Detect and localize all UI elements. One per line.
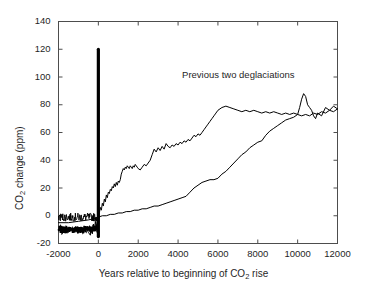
- y-tick-140: 140: [0, 15, 51, 26]
- y-tick-40: 40: [0, 154, 51, 165]
- annotation-previous-deglaciations: Previous two deglaciations: [182, 69, 294, 80]
- y-axis-title-prefix: CO: [14, 195, 25, 210]
- y-tick-80: 80: [0, 98, 51, 109]
- x-axis-title-prefix: Years relative to beginning of CO: [99, 268, 245, 279]
- y-tick-60: 60: [0, 126, 51, 137]
- y-axis-title-suffix: change (ppm): [14, 126, 25, 190]
- y-tick-100: 100: [0, 71, 51, 82]
- y-tick-120: 120: [0, 43, 51, 54]
- x-axis-title-suffix: rise: [249, 268, 268, 279]
- chart-figure: -20020406080100120140 -20000200040006000…: [0, 0, 367, 288]
- series-1: [59, 106, 338, 235]
- x-axis-title-subscript: 2: [245, 272, 249, 281]
- y-tick-0: 0: [0, 209, 51, 220]
- y-axis-title: CO2 change (ppm): [14, 126, 25, 210]
- series-2: [59, 94, 338, 223]
- y-axis-title-subscript: 2: [18, 191, 27, 195]
- x-tick-12000: 12000: [308, 248, 367, 259]
- chart-canvas: [0, 0, 367, 288]
- y-tick--20: -20: [0, 237, 51, 248]
- x-axis-title: Years relative to beginning of CO2 rise: [0, 268, 367, 279]
